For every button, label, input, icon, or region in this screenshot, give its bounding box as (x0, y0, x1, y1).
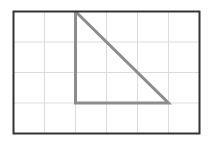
figure-container (0, 0, 213, 142)
grid-figure-svg (0, 0, 213, 142)
